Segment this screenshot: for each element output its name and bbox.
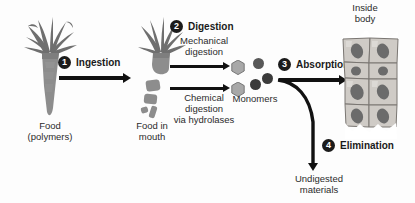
monomer-circle bbox=[262, 73, 273, 84]
label-inside-body-line2: body bbox=[328, 14, 402, 25]
monomer-circle bbox=[253, 58, 264, 69]
label-food-polymers-line2: (polymers) bbox=[6, 132, 94, 143]
elimination-curve bbox=[276, 74, 336, 184]
monomer-circle bbox=[250, 79, 261, 90]
step-2-title: Digestion bbox=[188, 21, 234, 32]
label-food-polymers: Food (polymers) bbox=[6, 121, 94, 142]
mechanical-digestion-arrow-head bbox=[223, 62, 230, 70]
label-inside-body: Inside body bbox=[328, 3, 402, 24]
label-undigested-line2: materials bbox=[272, 185, 366, 196]
chemical-digestion-arrow-head bbox=[223, 84, 230, 92]
mechanical-digestion-arrow-shaft bbox=[170, 65, 224, 68]
step-3-badge: 3 bbox=[278, 58, 291, 71]
pathway-chemical-line3: via hydrolases bbox=[160, 115, 248, 126]
step-1-badge: 1 bbox=[58, 56, 71, 69]
food-chunk bbox=[144, 93, 158, 104]
ingestion-arrow-shaft bbox=[59, 76, 124, 80]
food-chunk bbox=[145, 79, 160, 92]
step-2-badge: 2 bbox=[170, 20, 183, 33]
step-1-title: Ingestion bbox=[76, 57, 120, 68]
elimination-arrow-head bbox=[308, 163, 318, 171]
epithelial-tissue-icon bbox=[340, 27, 402, 143]
ingestion-arrow-head bbox=[123, 73, 131, 83]
pathway-mechanical-line2: digestion bbox=[168, 47, 240, 58]
step-4-badge: 4 bbox=[322, 139, 335, 152]
monomer-hexagon bbox=[231, 60, 245, 79]
label-undigested-materials: Undigested materials bbox=[272, 174, 366, 195]
chemical-digestion-arrow-shaft bbox=[170, 87, 224, 90]
label-food-in-mouth-line2: mouth bbox=[116, 132, 188, 143]
pathway-mechanical-label: Mechanical digestion bbox=[168, 36, 240, 58]
food-processing-diagram: Food (polymers) 1 Ingestion Food in mout… bbox=[0, 0, 415, 203]
